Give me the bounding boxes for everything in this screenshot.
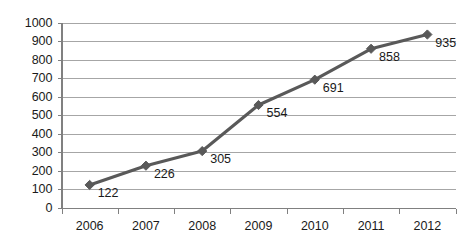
data-point-label: 554 [267, 106, 288, 120]
y-tick-label: 900 [32, 34, 53, 48]
y-tick-label: 1000 [25, 16, 53, 30]
x-tick-label: 2006 [76, 219, 104, 233]
y-tick-label: 100 [32, 182, 53, 196]
y-axis-tick-labels: 01002003004005006007008009001000 [25, 16, 53, 215]
data-point-label: 858 [379, 50, 400, 64]
y-tick-label: 500 [32, 108, 53, 122]
data-point-label: 305 [210, 152, 231, 166]
data-point-label: 226 [154, 167, 175, 181]
data-point-label: 122 [98, 186, 119, 200]
y-tick-label: 200 [32, 164, 53, 178]
data-point-marker [423, 30, 432, 39]
x-axis-tick-labels: 2006200720082009201020112012 [76, 219, 442, 233]
y-tick-label: 800 [32, 53, 53, 67]
y-tick-label: 0 [46, 201, 53, 215]
data-point-label: 935 [435, 36, 456, 50]
y-tick-label: 300 [32, 145, 53, 159]
x-tick-label: 2009 [245, 219, 273, 233]
y-tick-label: 600 [32, 90, 53, 104]
data-point-marker [85, 180, 94, 189]
data-point-label: 691 [323, 81, 344, 95]
line-chart: 01002003004005006007008009001000 2006200… [0, 0, 467, 250]
chart-canvas: 01002003004005006007008009001000 2006200… [0, 0, 467, 250]
data-point-marker [141, 161, 150, 170]
x-tick-label: 2008 [188, 219, 216, 233]
y-tick-label: 400 [32, 127, 53, 141]
x-tick-label: 2011 [358, 219, 385, 233]
y-tick-label: 700 [32, 71, 53, 85]
x-tick-label: 2010 [301, 219, 329, 233]
x-tick-label: 2012 [413, 219, 441, 233]
x-tick-label: 2007 [132, 219, 160, 233]
